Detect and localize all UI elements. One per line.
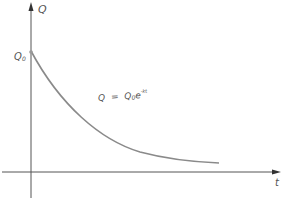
eq-sign: =	[111, 92, 119, 103]
q0-label: Q0	[14, 52, 26, 62]
q0-label-sub: 0	[22, 55, 26, 62]
eq-exp: -kt	[140, 88, 147, 94]
q0-label-base: Q	[14, 51, 22, 62]
q0-point	[29, 50, 33, 54]
t-axis-label: t	[275, 178, 279, 188]
q-axis-label: Q	[38, 4, 47, 15]
decay-diagram	[0, 0, 290, 213]
q-axis-arrow-icon	[29, 2, 34, 11]
t-axis-arrow-icon	[272, 170, 281, 175]
eq-lhs: Q	[98, 93, 106, 103]
decay-curve	[31, 51, 219, 163]
